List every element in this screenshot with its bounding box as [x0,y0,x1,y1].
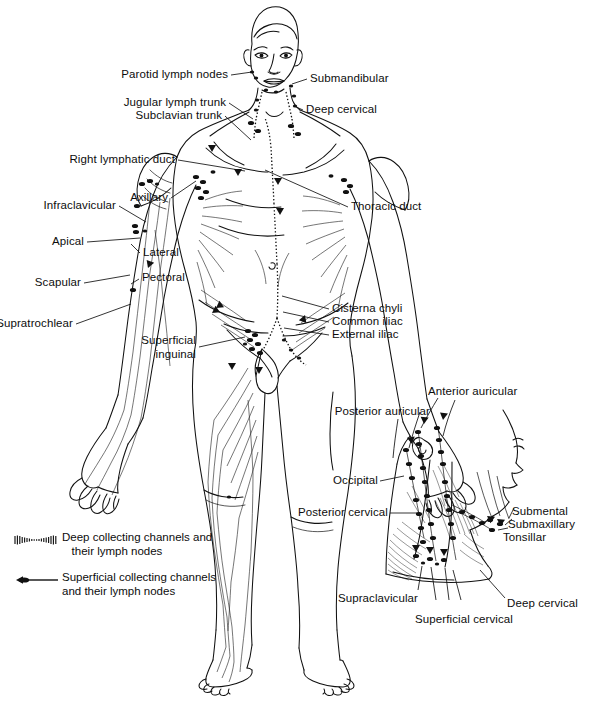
label-posterior-auricular: Posterior auricular [335,405,430,418]
label-lateral: Lateral [143,246,179,259]
label-supraclavicular: Supraclavicular [338,592,418,605]
deep-collecting-channel-symbol [14,533,62,547]
label-external-iliac: External iliac [332,328,399,341]
label-infraclavicular: Infraclavicular [44,199,116,212]
label-submaxillary: Submaxillary [508,518,575,531]
label-thoracic-duct: Thoracic duct [351,200,421,213]
legend: Deep collecting channels and their lymph… [14,531,219,611]
label-superficial-cervical: Superficial cervical [415,613,513,626]
label-axillary: Axillary [130,191,168,204]
legend-label-deep: Deep collecting channels and their lymph… [62,531,212,558]
label-submental: Submental [512,505,568,518]
label-occipital: Occipital [333,474,378,487]
label-parotid-lymph-nodes: Parotid lymph nodes [121,68,228,81]
label-deep-cervical-inset: Deep cervical [507,597,578,610]
label-jugular-lymph-trunk: Jugular lymph trunk [124,96,226,109]
label-pectoral: Pectoral [142,271,185,284]
legend-item-superficial: Superficial collecting channels and thei… [14,571,219,598]
legend-item-deep: Deep collecting channels and their lymph… [14,531,219,558]
label-superficial-inguinal: Superficial inguinal [141,334,196,361]
label-right-lymphatic-duct: Right lymphatic duct [69,153,175,166]
label-submandibular: Submandibular [310,72,389,85]
label-deep-cervical: Deep cervical [306,103,377,116]
label-scapular: Scapular [35,276,81,289]
label-tonsillar: Tonsillar [503,531,546,544]
label-posterior-cervical: Posterior cervical [298,506,388,519]
legend-label-superficial: Superficial collecting channels and thei… [62,571,216,598]
label-supratrochlear: Supratrochlear [0,317,73,330]
label-cisterna-chyli: Cisterna chyli [332,302,402,315]
label-common-iliac: Common iliac [332,315,403,328]
label-subclavian-trunk: Subclavian trunk [135,109,222,122]
superficial-collecting-channel-symbol [14,573,62,587]
label-anterior-auricular: Anterior auricular [428,385,517,398]
label-apical: Apical [52,235,84,248]
